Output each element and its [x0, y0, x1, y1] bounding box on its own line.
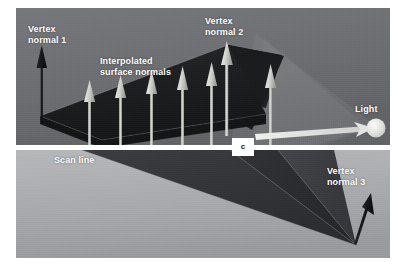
lower-panel-graphics [16, 150, 390, 258]
point-c-label: c [241, 143, 245, 151]
panel-separator [0, 145, 406, 150]
upper-diagram-panel [16, 8, 390, 145]
upper-panel-graphics [16, 8, 390, 145]
figure-root: c Vertex normal 1 Interpolated surface n… [0, 0, 406, 264]
light-sphere-icon [367, 119, 386, 138]
lower-diagram-panel [16, 150, 390, 258]
point-c-marker: c [232, 138, 254, 156]
